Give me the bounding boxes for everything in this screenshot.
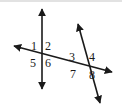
angle-label-3: 3	[69, 51, 75, 63]
transversal-line	[14, 46, 112, 72]
angle-label-2: 2	[45, 40, 51, 52]
angles-diagram	[0, 0, 122, 110]
angle-label-5: 5	[30, 57, 36, 69]
angle-label-1: 1	[31, 40, 37, 52]
angle-label-8: 8	[89, 69, 95, 81]
geometry-figure: 1 2 5 6 3 4 7 8	[0, 0, 122, 110]
angle-label-7: 7	[70, 68, 76, 80]
angle-label-6: 6	[45, 57, 51, 69]
angle-label-4: 4	[89, 51, 95, 63]
